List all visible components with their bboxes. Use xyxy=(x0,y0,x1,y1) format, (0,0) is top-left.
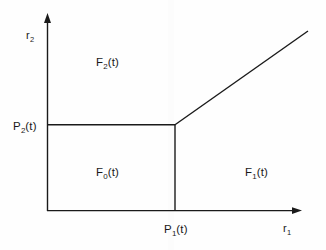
x-axis-tick-label-p1: P1(t) xyxy=(164,220,188,238)
tick-p1-base: P xyxy=(164,223,172,235)
tick-p2-suffix: (t) xyxy=(25,120,36,132)
y-axis-label-subscript: 2 xyxy=(30,35,34,44)
tick-p2-base: P xyxy=(13,120,21,132)
x-axis-label-subscript: 1 xyxy=(287,228,291,237)
diagram-canvas xyxy=(0,0,326,250)
region-f2-suffix: (t) xyxy=(108,56,119,68)
y-axis-tick-label-p2: P2(t) xyxy=(13,117,37,135)
y-axis-arrow-icon xyxy=(44,13,51,23)
x-axis-arrow-icon xyxy=(292,207,302,214)
region-f0-suffix: (t) xyxy=(108,166,119,178)
tick-p1-suffix: (t) xyxy=(176,223,187,235)
y-axis-label: r2 xyxy=(26,26,34,43)
x-axis-label: r1 xyxy=(283,219,291,236)
region-label-f2: F2(t) xyxy=(96,53,119,71)
region-label-f1: F1(t) xyxy=(245,163,268,181)
region-f1-suffix: (t) xyxy=(257,166,268,178)
region-label-f0: F0(t) xyxy=(96,163,119,181)
region-partition-diagram: r2 r1 P2(t) P1(t) F2(t) F0(t) F1(t) xyxy=(0,0,326,250)
boundary-diagonal-ray xyxy=(175,31,308,125)
